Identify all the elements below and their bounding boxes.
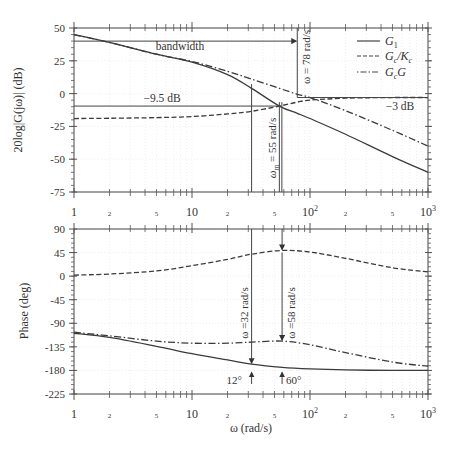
x-tick-label: 5	[391, 210, 395, 218]
curve-gc-kc	[74, 97, 428, 118]
phase-margin-60-label: 60°	[286, 374, 301, 386]
y-tick-label: 90	[54, 223, 66, 235]
x-tick-label: 103	[420, 204, 436, 219]
curve-g1	[74, 35, 428, 173]
x-axis-label: ω (rad/s)	[230, 421, 272, 435]
y-tick-label: -90	[50, 317, 65, 329]
magnitude-y-axis-label: 20log|G(jω)| (dB)	[11, 67, 25, 152]
x-tick-label: 2	[226, 412, 230, 420]
x-tick-label: 2	[226, 210, 230, 218]
legend-g1: G1	[385, 34, 398, 50]
x-tick-label: 1	[71, 205, 77, 219]
y-tick-label: -180	[45, 364, 66, 376]
y-tick-label: -225	[45, 388, 66, 400]
x-tick-label: 1	[71, 407, 77, 421]
y-tick-label: 0	[60, 270, 66, 282]
y-tick-label: 25	[54, 55, 66, 67]
curve-gcg	[74, 35, 428, 147]
y-tick-label: -25	[50, 120, 65, 132]
magnitude-curves	[74, 35, 428, 173]
curve-g1	[74, 333, 428, 370]
annotations	[74, 28, 428, 384]
omega-32-label: ω =32 rad/s	[238, 287, 250, 338]
phase-margin-12-label: 12°	[227, 374, 242, 386]
x-tick-label: 103	[420, 406, 436, 421]
phase-y-axis-label: Phase (deg)	[17, 283, 31, 339]
bandwidth-label: bandwidth	[156, 40, 205, 52]
legend-gcg: GcG	[385, 65, 406, 81]
x-tick-label: 2	[108, 210, 112, 218]
x-tick-label: 10	[186, 205, 198, 219]
omega-78-label: ω = 78 rad/s	[300, 30, 312, 84]
omega-m-55-label: ωm = 55 rad/s	[266, 118, 281, 178]
plot-frame	[74, 229, 428, 394]
x-tick-label: 5	[155, 210, 159, 218]
legend: G1 Gc/Kc GcG	[357, 34, 413, 81]
curve-gcg	[74, 332, 428, 366]
x-tick-label: 5	[273, 210, 277, 218]
x-tick-label: 2	[344, 412, 348, 420]
x-tick-label: 2	[344, 210, 348, 218]
y-tick-label: -45	[50, 294, 65, 306]
x-tick-label: 2	[108, 412, 112, 420]
x-tick-label: 5	[391, 412, 395, 420]
curve-gc-kc	[74, 250, 428, 275]
svg-text:ωm = 55 rad/s: ωm = 55 rad/s	[266, 118, 281, 178]
x-tick-label: 10	[186, 407, 198, 421]
y-tick-label: -75	[50, 186, 65, 198]
minus-9-5-db-label: −9.5 dB	[143, 92, 180, 104]
y-tick-label: -50	[50, 153, 65, 165]
y-tick-label: 0	[60, 88, 66, 100]
x-tick-label: 5	[273, 412, 277, 420]
x-tick-label: 102	[302, 204, 318, 219]
y-tick-label: -135	[45, 341, 66, 353]
x-tick-label: 5	[155, 412, 159, 420]
bode-figure: 50250-25-50-75125102510225103 90450-45-9…	[0, 0, 459, 457]
omega-58-label: ω =58 rad/s	[285, 287, 297, 338]
plot-frame	[74, 28, 428, 192]
minus-3-db-label: −3 dB	[386, 100, 415, 112]
phase-grid	[74, 229, 428, 394]
phase-curves	[74, 250, 428, 370]
magnitude-axes: 50250-25-50-75125102510225103	[50, 22, 436, 219]
x-tick-label: 102	[302, 406, 318, 421]
legend-gc-kc: Gc/Kc	[385, 49, 413, 65]
y-tick-label: 50	[54, 22, 66, 34]
y-tick-label: 45	[54, 247, 66, 259]
magnitude-grid	[74, 28, 428, 192]
